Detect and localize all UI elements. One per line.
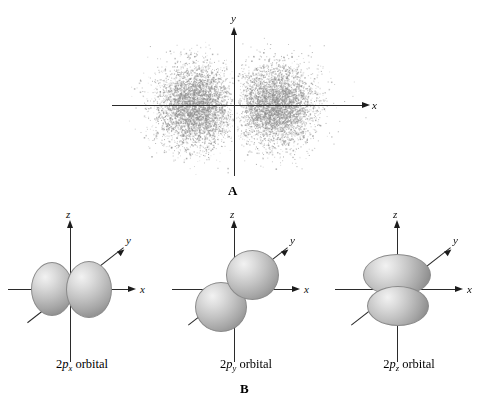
z-axis-label-2pz: z	[393, 209, 397, 220]
orbital-lobe-negative-2pz	[367, 286, 429, 326]
y-axis-arrowhead-2pz	[444, 247, 453, 256]
orbital-caption-2px: 2px orbital	[0, 358, 164, 371]
orbital-diagram-2py: x z y 2py orbital B	[164, 214, 328, 414]
x-axis-label-2py: x	[304, 284, 309, 295]
panel-b-letter: B	[240, 382, 249, 395]
orbital-diagram-2pz: x z y 2pz orbital	[327, 214, 491, 414]
orbital-stage-2py: x z y	[164, 214, 328, 364]
orbital-lobe-positive-2px	[66, 261, 112, 318]
caption-subscript-2px: x	[68, 363, 72, 373]
panel-a-y-axis-label: y	[231, 13, 236, 24]
x-axis-arrowhead-2py	[292, 286, 300, 292]
panel-a-y-axis-arrowhead	[231, 27, 237, 35]
z-axis-label-2px: z	[66, 209, 70, 220]
orbital-diagram-2px: x z y 2px orbital	[0, 214, 164, 414]
panel-a-x-axis-arrowhead	[362, 102, 370, 108]
caption-suffix-2px: orbital	[72, 357, 108, 371]
caption-suffix-2py: orbital	[236, 357, 272, 371]
x-axis-arrowhead-2pz	[455, 286, 463, 292]
electron-density-dot-cloud	[100, 36, 370, 176]
y-axis-arrowhead-2py	[281, 247, 290, 256]
x-axis-label-2pz: x	[467, 284, 472, 295]
z-axis-arrowhead-2px	[67, 220, 73, 228]
panel-a-letter: A	[228, 184, 237, 197]
caption-suffix-2pz: orbital	[399, 357, 435, 371]
caption-subscript-2pz: z	[396, 363, 399, 373]
y-axis-arrowhead-2px	[117, 247, 126, 256]
z-axis-label-2py: z	[230, 209, 234, 220]
orbital-stage-2px: x z y	[0, 214, 164, 364]
orbital-stage-2pz: x z y	[327, 214, 491, 364]
panel-a-x-axis-label: x	[372, 100, 377, 111]
panel-a-y-axis	[234, 34, 235, 176]
orbital-caption-2pz: 2pz orbital	[327, 358, 491, 371]
z-axis-arrowhead-2pz	[394, 220, 400, 228]
z-axis-arrowhead-2py	[231, 220, 237, 228]
caption-symbol-2pz: p	[389, 357, 395, 371]
orbital-lobe-positive-2py	[226, 250, 279, 300]
p-orbital-figure: x y A x z y	[0, 0, 491, 414]
panel-a-x-axis	[112, 105, 364, 106]
y-axis-label-2px: y	[126, 235, 131, 246]
caption-subscript-2py: y	[232, 363, 236, 373]
orbital-caption-2py: 2py orbital	[164, 358, 328, 371]
x-axis-label-2px: x	[140, 284, 145, 295]
y-axis-label-2py: y	[290, 235, 295, 246]
x-axis-arrowhead-2px	[128, 286, 136, 292]
y-axis-label-2pz: y	[453, 235, 458, 246]
